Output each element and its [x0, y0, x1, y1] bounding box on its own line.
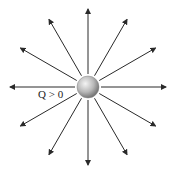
- positive-charge-sphere: [77, 76, 99, 98]
- field-lines-diagram: [0, 0, 175, 171]
- charge-label: Q > 0: [38, 88, 63, 100]
